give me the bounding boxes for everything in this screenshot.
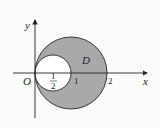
x-axis-label: x xyxy=(142,75,148,87)
origin-label: O xyxy=(23,75,31,87)
diagram-canvas: y x O D 1 2 1 2 xyxy=(0,0,160,128)
region-label: D xyxy=(81,54,90,66)
tick-half-denominator: 2 xyxy=(51,81,56,91)
tick-one: 1 xyxy=(74,76,79,86)
y-axis-label: y xyxy=(24,19,30,31)
tick-half-numerator: 1 xyxy=(51,71,56,81)
tick-two: 2 xyxy=(108,76,113,86)
